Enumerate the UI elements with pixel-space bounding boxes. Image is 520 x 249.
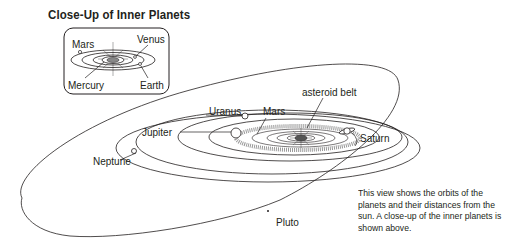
- inset-label-mars: Mars: [72, 39, 94, 50]
- label-pluto: Pluto: [276, 217, 299, 228]
- inset-mars-marker: [78, 50, 81, 53]
- inset-venus-marker: [134, 56, 137, 59]
- label-asteroid-belt: asteroid belt: [302, 87, 357, 98]
- pluto-marker: [267, 210, 269, 212]
- label-neptune: Neptune: [93, 156, 131, 167]
- label-saturn: Saturn: [360, 133, 389, 144]
- inset-label-venus: Venus: [137, 34, 165, 45]
- caption-text: This view shows the orbits of the planet…: [358, 188, 511, 234]
- label-uranus: Uranus: [209, 106, 241, 117]
- label-mars: Mars: [263, 106, 285, 117]
- inset-label-earth: Earth: [140, 80, 164, 91]
- inner-planets-inset: Mars Venus Mercury Earth: [64, 28, 169, 94]
- label-jupiter: Jupiter: [142, 127, 173, 138]
- jupiter-marker: [231, 128, 241, 138]
- inset-label-mercury: Mercury: [68, 80, 104, 91]
- uranus-marker: [242, 113, 248, 119]
- inset-earth-marker: [139, 63, 142, 66]
